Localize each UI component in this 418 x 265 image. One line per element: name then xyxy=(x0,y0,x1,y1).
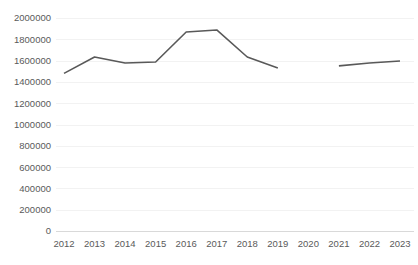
y-axis-tick-label: 0 xyxy=(46,225,51,236)
series-line xyxy=(64,30,278,73)
y-axis-tick-labels: 0200000400000600000800000100000012000001… xyxy=(14,12,51,236)
x-axis-tick-label: 2020 xyxy=(298,238,319,249)
chart-container: 0200000400000600000800000100000012000001… xyxy=(0,0,418,265)
y-axis-tick-label: 1600000 xyxy=(14,55,51,66)
y-axis-tick-label: 600000 xyxy=(19,162,51,173)
x-axis-tick-label: 2013 xyxy=(84,238,105,249)
x-axis-tick-label: 2022 xyxy=(359,238,380,249)
line-chart: 0200000400000600000800000100000012000001… xyxy=(0,0,418,265)
x-axis-tick-label: 2023 xyxy=(389,238,410,249)
x-axis-tick-label: 2014 xyxy=(115,238,136,249)
y-axis-tick-label: 1400000 xyxy=(14,76,51,87)
x-axis-tick-label: 2021 xyxy=(328,238,349,249)
y-axis-tick-label: 1800000 xyxy=(14,34,51,45)
x-axis-tick-labels: 2012201320142015201620172018201920202021… xyxy=(53,238,410,249)
data-series xyxy=(64,30,400,73)
x-axis-tick-label: 2019 xyxy=(267,238,288,249)
gridlines xyxy=(56,19,414,232)
y-axis-tick-label: 400000 xyxy=(19,183,51,194)
y-axis-tick-label: 1200000 xyxy=(14,98,51,109)
y-axis-tick-label: 200000 xyxy=(19,204,51,215)
x-axis-tick-label: 2012 xyxy=(53,238,74,249)
y-axis-tick-label: 1000000 xyxy=(14,119,51,130)
x-axis-tick-label: 2017 xyxy=(206,238,227,249)
series-line xyxy=(339,61,400,66)
x-axis-tick-label: 2018 xyxy=(237,238,258,249)
y-axis-tick-label: 800000 xyxy=(19,140,51,151)
x-axis-tick-label: 2015 xyxy=(145,238,166,249)
y-axis-tick-label: 2000000 xyxy=(14,12,51,23)
x-axis-tick-label: 2016 xyxy=(176,238,197,249)
